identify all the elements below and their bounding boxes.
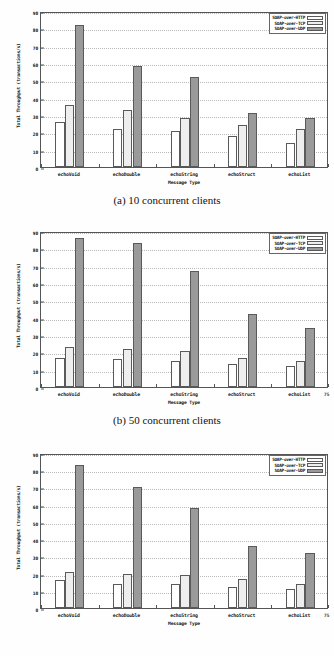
y-tick-mark [41, 354, 44, 355]
y-tick-mark [41, 13, 44, 14]
bar-echoDouble-SOAP-over-TCP [123, 349, 132, 387]
y-tick-label: 10 [33, 590, 38, 595]
legend-swatch [307, 241, 323, 245]
legend-swatch [307, 469, 323, 473]
x-axis-label: Message Type [154, 180, 214, 185]
y-tick-label: 70 [33, 265, 38, 270]
y-tick-label: 40 [33, 317, 38, 322]
y-tick-label: 0 [35, 387, 38, 392]
bar-echoList-SOAP-over-HTTP [286, 366, 295, 387]
bar-echoStruct-SOAP-over-UDP [248, 314, 257, 387]
bar-echoVoid-SOAP-over-UDP [75, 25, 84, 167]
y-tick-mark [41, 285, 44, 286]
y-tick-label: 30 [33, 556, 38, 561]
y-tick-label: 60 [33, 63, 38, 68]
legend-label: SOAP-over-HTTP [272, 235, 305, 240]
chart-legend: SOAP-over-HTTPSOAP-over-TCPSOAP-over-UDP [269, 455, 326, 476]
x-tick-mark [328, 384, 329, 387]
y-tick-mark [41, 337, 44, 338]
y-tick-label: 20 [33, 573, 38, 578]
y-tick-mark [41, 489, 44, 490]
y-tick-label: 10 [33, 369, 38, 374]
y-tick-mark [41, 117, 44, 118]
plot-area: 0102030405060708090 [40, 232, 328, 388]
x-tick-mark [41, 384, 42, 387]
x-tick-mark [271, 164, 272, 167]
x-tick-mark [41, 605, 42, 608]
x-tick-label-echoList: echoList [288, 392, 310, 397]
bar-echoDouble-SOAP-over-TCP [123, 574, 132, 608]
x-tick-mark [328, 605, 329, 608]
figure-page: 0102030405060708090Total Throughput (tra… [0, 0, 334, 656]
y-tick-mark [41, 169, 44, 170]
bar-echoString-SOAP-over-UDP [190, 77, 199, 167]
y-tick-label: 20 [33, 132, 38, 137]
legend-item-SOAP-over-TCP: SOAP-over-TCP [272, 21, 323, 27]
legend-label: SOAP-over-HTTP [272, 15, 305, 20]
y-axis-label: Total Throughput (transactions/s) [16, 43, 21, 128]
x-axis-label: Message Type [154, 400, 214, 405]
corner-artifact: 75 [324, 392, 329, 397]
legend-item-SOAP-over-HTTP: SOAP-over-HTTP [272, 235, 323, 241]
bar-echoString-SOAP-over-UDP [190, 271, 199, 387]
y-tick-mark [41, 523, 44, 524]
x-tick-mark [214, 164, 215, 167]
y-tick-label: 50 [33, 80, 38, 85]
y-tick-label: 50 [33, 300, 38, 305]
x-tick-label-echoVoid: echoVoid [58, 613, 80, 618]
y-tick-label: 40 [33, 97, 38, 102]
bar-echoDouble-SOAP-over-HTTP [113, 129, 122, 167]
legend-item-SOAP-over-UDP: SOAP-over-UDP [272, 468, 323, 474]
y-tick-label: 30 [33, 335, 38, 340]
bar-echoString-SOAP-over-HTTP [171, 131, 180, 167]
bar-echoVoid-SOAP-over-UDP [75, 465, 84, 608]
y-tick-mark [41, 47, 44, 48]
chart-legend: SOAP-over-HTTPSOAP-over-TCPSOAP-over-UDP [269, 13, 326, 34]
x-tick-label-echoList: echoList [288, 172, 310, 177]
legend-item-SOAP-over-TCP: SOAP-over-TCP [272, 241, 323, 247]
x-axis-label: Message Type [154, 621, 214, 626]
y-tick-label: 60 [33, 504, 38, 509]
x-tick-label-echoVoid: echoVoid [58, 172, 80, 177]
y-tick-mark [41, 134, 44, 135]
y-tick-mark [41, 233, 44, 234]
bar-echoList-SOAP-over-TCP [296, 584, 305, 608]
x-tick-mark [99, 605, 100, 608]
x-tick-mark [99, 164, 100, 167]
bar-echoList-SOAP-over-HTTP [286, 589, 295, 608]
bar-echoString-SOAP-over-UDP [190, 508, 199, 608]
figure-a: 0102030405060708090Total Throughput (tra… [0, 0, 334, 218]
bar-echoString-SOAP-over-HTTP [171, 361, 180, 387]
bar-echoVoid-SOAP-over-TCP [65, 105, 74, 167]
legend-swatch [307, 21, 323, 25]
plot-area: 0102030405060708090 [40, 454, 328, 609]
y-tick-mark [41, 151, 44, 152]
bar-echoStruct-SOAP-over-TCP [238, 579, 247, 608]
y-tick-label: 90 [33, 453, 38, 458]
y-tick-mark [41, 506, 44, 507]
x-tick-mark [156, 164, 157, 167]
legend-swatch [307, 16, 323, 20]
y-tick-label: 20 [33, 352, 38, 357]
x-tick-label-echoStruct: echoStruct [228, 613, 255, 618]
bar-echoStruct-SOAP-over-TCP [238, 125, 247, 167]
y-tick-mark [41, 610, 44, 611]
bar-echoDouble-SOAP-over-UDP [133, 487, 142, 608]
legend-item-SOAP-over-UDP: SOAP-over-UDP [272, 246, 323, 252]
x-tick-mark [156, 605, 157, 608]
x-tick-mark [41, 164, 42, 167]
legend-swatch [307, 27, 323, 31]
plot-area: 0102030405060708090 [40, 12, 328, 168]
bar-echoList-SOAP-over-UDP [305, 553, 314, 608]
y-tick-mark [41, 82, 44, 83]
y-tick-label: 80 [33, 470, 38, 475]
legend-label: SOAP-over-TCP [275, 241, 305, 246]
x-tick-label-echoVoid: echoVoid [58, 392, 80, 397]
y-tick-label: 0 [35, 608, 38, 613]
y-axis-label: Total Throughput (transactions/s) [16, 263, 21, 348]
bar-echoStruct-SOAP-over-HTTP [228, 136, 237, 167]
bar-echoVoid-SOAP-over-HTTP [55, 580, 64, 608]
chart-legend: SOAP-over-HTTPSOAP-over-TCPSOAP-over-UDP [269, 233, 326, 254]
legend-label: SOAP-over-UDP [275, 468, 305, 473]
x-tick-mark [271, 384, 272, 387]
